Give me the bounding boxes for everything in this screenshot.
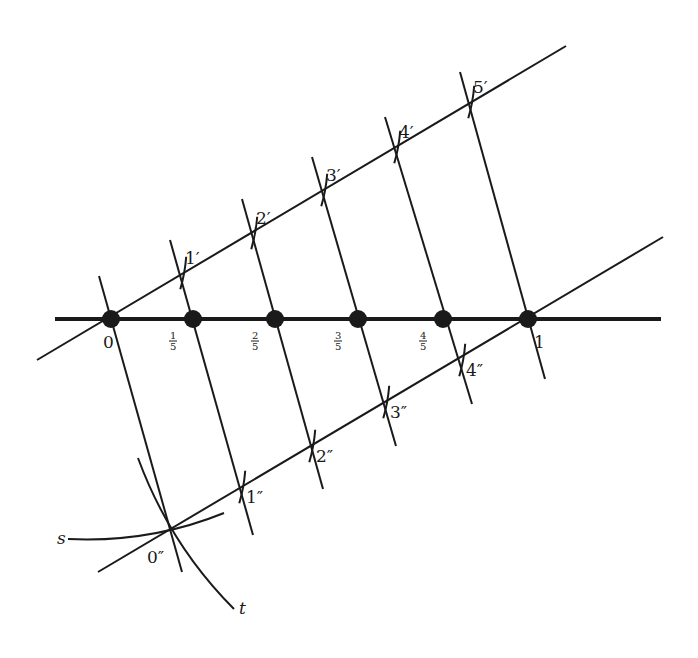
fraction-denominator-1: 5 xyxy=(170,341,176,352)
division-point-0 xyxy=(102,310,120,328)
label-s: s xyxy=(57,528,66,548)
label-double-prime-2: 2″ xyxy=(316,446,333,466)
label-prime-5: 5′ xyxy=(473,77,488,97)
label-prime-2: 2′ xyxy=(256,208,271,228)
fraction-denominator-3: 5 xyxy=(335,341,341,352)
label-zero: 0 xyxy=(103,332,114,352)
fraction-denominator-2: 5 xyxy=(252,341,258,352)
division-point-2 xyxy=(266,310,284,328)
label-one: 1 xyxy=(534,332,545,352)
fraction-numerator-4: 4 xyxy=(420,330,426,341)
parallel-transversal-4 xyxy=(385,117,472,404)
label-double-prime-4: 4″ xyxy=(466,360,483,380)
fraction-denominator-4: 5 xyxy=(420,341,426,352)
compass-arc-marks xyxy=(180,86,474,503)
division-point-4 xyxy=(434,310,452,328)
label-prime-3: 3′ xyxy=(326,165,341,185)
label-double-prime-0: 0″ xyxy=(147,547,164,567)
fraction-numerator-2: 2 xyxy=(252,330,258,341)
fraction-numerator-3: 3 xyxy=(335,330,341,341)
parallel-transversal-3 xyxy=(312,157,396,446)
label-double-prime-3: 3″ xyxy=(390,402,407,422)
fraction-numerator-1: 1 xyxy=(170,330,176,341)
label-prime-1: 1′ xyxy=(185,248,200,268)
label-prime-4: 4′ xyxy=(399,122,414,142)
unit-division-diagram: 01525354511′2′3′4′5′0″1″2″3″4″st xyxy=(0,0,698,658)
construction-lines xyxy=(37,46,663,609)
label-t: t xyxy=(239,598,246,618)
label-double-prime-1: 1″ xyxy=(246,487,263,507)
division-point-5 xyxy=(519,310,537,328)
arc-s xyxy=(68,513,224,539)
division-point-1 xyxy=(184,310,202,328)
division-point-3 xyxy=(349,310,367,328)
